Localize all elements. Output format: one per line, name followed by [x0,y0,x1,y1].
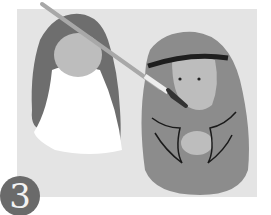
illustration-canvas: 3 [0,0,271,215]
man-eye-right [197,77,200,80]
step-number-badge: 3 [0,176,40,215]
man-eye-left [178,77,181,80]
painted-rocks-illustration [0,0,271,215]
man-chest [181,131,213,155]
